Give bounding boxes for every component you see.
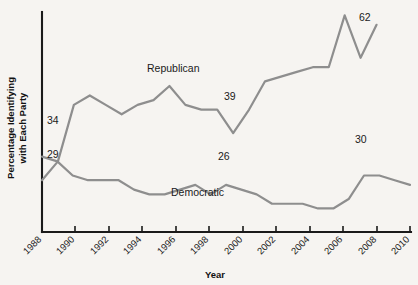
annotation-30: 30: [355, 133, 367, 145]
x-axis-title: Year: [205, 269, 225, 280]
annotation-62: 62: [359, 11, 371, 23]
chart-container: 1988 1990 1992 1994 1996 1998 2000 2002 …: [0, 0, 418, 285]
y-axis-title-line1: Percentage Identifying: [5, 77, 16, 179]
annotation-39: 39: [224, 90, 236, 102]
series-label-democratic: Democratic: [171, 186, 224, 198]
y-axis-title-line2: with Each Party: [17, 92, 28, 164]
annotation-26: 26: [218, 150, 230, 162]
annotation-34: 34: [47, 114, 59, 126]
annotation-29: 29: [47, 148, 59, 160]
series-label-republican: Republican: [147, 62, 200, 74]
line-chart: 1988 1990 1992 1994 1996 1998 2000 2002 …: [0, 0, 418, 285]
